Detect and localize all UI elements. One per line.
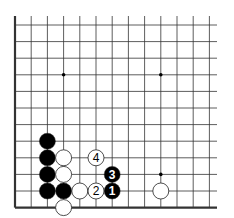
black-stone — [39, 183, 55, 199]
move-4-white-stone: 4 — [88, 150, 104, 166]
move-3-black-stone: 3 — [104, 166, 120, 182]
black-stone — [39, 133, 55, 149]
star-point — [62, 73, 66, 77]
white-stone-disc — [72, 183, 88, 199]
star-point — [159, 73, 163, 77]
white-stone — [56, 166, 72, 182]
move-number-label: 1 — [109, 184, 116, 198]
white-stone — [56, 200, 72, 216]
black-stone-disc — [56, 183, 72, 199]
white-stone-disc — [153, 183, 169, 199]
white-stone-disc — [56, 150, 72, 166]
move-number-label: 4 — [93, 151, 100, 165]
black-stone — [56, 183, 72, 199]
move-2-white-stone: 2 — [88, 183, 104, 199]
black-stone-disc — [39, 150, 55, 166]
black-stone — [39, 166, 55, 182]
move-number-label: 2 — [93, 184, 100, 198]
move-1-black-stone: 1 — [104, 183, 120, 199]
white-stone — [153, 183, 169, 199]
black-stone-disc — [39, 183, 55, 199]
black-stone — [39, 150, 55, 166]
white-stone — [72, 183, 88, 199]
white-stone-disc — [56, 166, 72, 182]
black-stone-disc — [39, 166, 55, 182]
move-number-label: 3 — [109, 168, 116, 182]
star-point — [159, 173, 163, 177]
go-board: 1234 — [0, 0, 234, 218]
white-stone — [56, 150, 72, 166]
black-stone-disc — [39, 133, 55, 149]
white-stone-disc — [56, 200, 72, 216]
